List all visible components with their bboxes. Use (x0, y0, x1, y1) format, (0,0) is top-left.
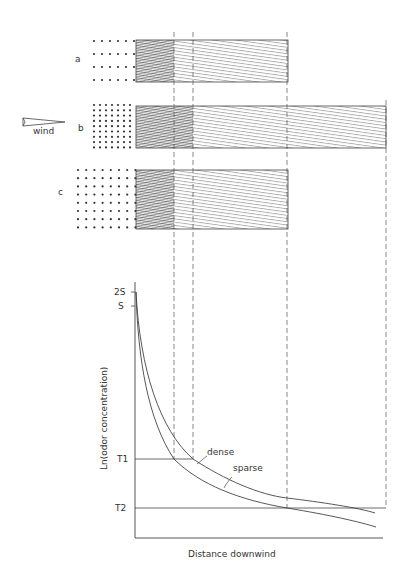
dense-curve (136, 292, 375, 513)
y-tick-2s: 2S (114, 288, 125, 297)
x-axis-label: Distance downwind (188, 550, 276, 559)
odor-source-dots-c (77, 169, 137, 229)
y-tick-s: S (118, 302, 124, 311)
panel-a (93, 40, 288, 82)
odor-source-dots-a (93, 40, 135, 81)
diagram-canvas (0, 0, 401, 579)
panel-label-b: b (78, 124, 84, 133)
y-axis-label: Ln(odor concentration) (100, 367, 109, 470)
wind-arrow-icon (23, 118, 65, 126)
sparse-curve-label: sparse (233, 464, 263, 473)
graph (131, 282, 386, 538)
y-tick-t1: T1 (117, 455, 128, 464)
y-tick-t2: T2 (115, 504, 126, 513)
odor-source-dots-b (93, 104, 131, 149)
sparse-curve (136, 292, 376, 527)
panel-c (77, 169, 288, 229)
panel-label-a: a (75, 55, 81, 64)
wind-label: wind (33, 127, 54, 136)
dashed-guides (174, 32, 386, 508)
panel-label-c: c (58, 188, 63, 197)
panel-b (93, 104, 386, 149)
dense-curve-label: dense (207, 448, 234, 457)
